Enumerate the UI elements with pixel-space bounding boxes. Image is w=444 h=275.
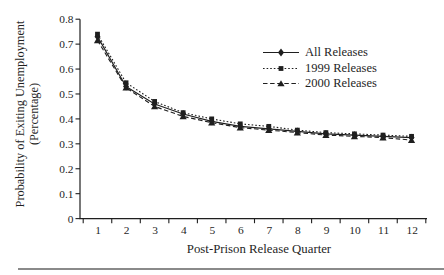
x-tick-label: 3 xyxy=(152,224,158,236)
plot-svg: 00.10.20.30.40.50.60.70.8123456789101112 xyxy=(0,0,444,275)
x-tick-label: 8 xyxy=(295,224,301,236)
bottom-divider-rule xyxy=(18,268,444,270)
dotted-line-square-marker-icon xyxy=(262,63,300,74)
x-tick-label: 1 xyxy=(95,224,101,236)
x-tick-label: 11 xyxy=(378,224,389,236)
y-tick-label: 0.2 xyxy=(59,163,74,175)
x-tick-label: 6 xyxy=(238,224,244,236)
legend-label-1999-releases: 1999 Releases xyxy=(305,61,377,76)
y-tick-label: 0.1 xyxy=(59,188,74,200)
y-tick-label: 0.8 xyxy=(59,13,74,25)
diamond-marker-icon xyxy=(278,49,284,57)
y-ticks: 00.10.20.30.40.50.60.70.8 xyxy=(59,13,80,224)
x-tick-label: 7 xyxy=(267,224,273,236)
x-tick-label: 12 xyxy=(406,224,418,236)
y-tick-label: 0 xyxy=(68,213,74,225)
y-tick-label: 0.7 xyxy=(59,38,74,50)
legend: All Releases 1999 Releases 2000 Releases xyxy=(262,45,377,92)
x-tick-label: 10 xyxy=(349,224,361,236)
square-marker-icon xyxy=(279,66,284,71)
x-tick-label: 9 xyxy=(324,224,330,236)
legend-label-all-releases: All Releases xyxy=(305,45,368,60)
y-tick-label: 0.4 xyxy=(59,113,74,125)
y-tick-label: 0.3 xyxy=(59,138,74,150)
legend-row-1999-releases: 1999 Releases xyxy=(262,61,377,77)
y-tick-label: 0.6 xyxy=(59,63,74,75)
y-tick-label: 0.5 xyxy=(59,88,74,100)
x-axis-title: Post-Prison Release Quarter xyxy=(80,242,438,257)
x-tick-label: 4 xyxy=(181,224,187,236)
x-tick-label: 5 xyxy=(209,224,215,236)
legend-label-2000-releases: 2000 Releases xyxy=(305,76,377,91)
unemployment-exit-probability-figure: Probability of Exiting Unemployment (Per… xyxy=(0,0,444,275)
x-ticks: 123456789101112 xyxy=(83,219,426,236)
x-tick-label: 2 xyxy=(124,224,130,236)
legend-row-2000-releases: 2000 Releases xyxy=(262,76,377,92)
solid-line-diamond-marker-icon xyxy=(262,47,300,58)
legend-row-all-releases: All Releases xyxy=(262,45,377,61)
dashed-line-triangle-marker-icon xyxy=(262,78,300,89)
